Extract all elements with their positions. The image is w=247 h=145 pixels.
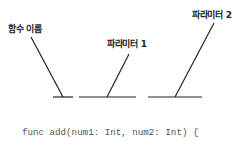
parameter-1-leader bbox=[107, 54, 129, 97]
function-anatomy-diagram: 함수 이름 파라미터 1 파라미터 2 func add(num1: Int, … bbox=[0, 0, 247, 145]
function-name-leader bbox=[31, 37, 63, 97]
parameter-2-leader bbox=[175, 23, 214, 97]
code-line-1: func add(num1: Int, num2: Int) { bbox=[22, 126, 198, 139]
code-block: func add(num1: Int, num2: Int) { print(n… bbox=[22, 100, 198, 145]
